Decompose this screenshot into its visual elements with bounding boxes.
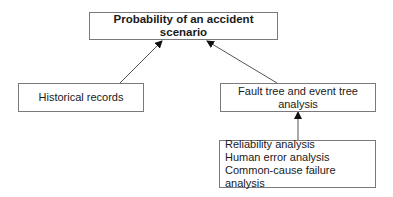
input-human-error-analysis: Human error analysis — [225, 151, 330, 164]
node-historical-records: Historical records — [18, 83, 144, 112]
input-common-cause-failure-analysis: Common-cause failure analysis — [225, 164, 375, 190]
node-analysis-inputs: Reliability analysis Human error analysi… — [219, 140, 376, 188]
node-accident-probability-label: Probability of an accident scenario — [90, 13, 277, 39]
node-accident-probability: Probability of an accident scenario — [89, 12, 278, 40]
node-historical-records-label: Historical records — [39, 91, 124, 104]
node-fault-event-tree: Fault tree and event tree analysis — [220, 83, 376, 112]
node-fault-event-tree-line1: Fault tree and event tree — [238, 85, 358, 98]
input-reliability-analysis: Reliability analysis — [225, 138, 315, 151]
arrow-faulttree-to-top — [207, 41, 277, 83]
node-fault-event-tree-line2: analysis — [278, 98, 318, 111]
arrow-historical-to-top — [120, 41, 162, 83]
